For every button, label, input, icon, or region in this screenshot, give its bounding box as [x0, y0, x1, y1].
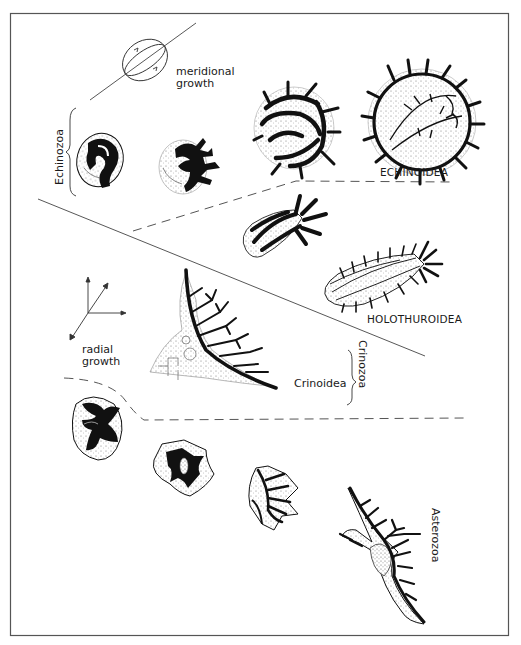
echinoidea-class-label: ECHINOIDEA — [380, 166, 448, 178]
holothuroidea-class-label: HOLOTHUROIDEA — [367, 313, 462, 325]
echinozoa-specimen-1 — [71, 128, 129, 192]
crinozoa-bracket — [347, 350, 356, 405]
echinozoa-group-label: Echinozoa — [54, 129, 66, 185]
asterozoa-specimen-4 — [340, 488, 424, 624]
crinoidea-class-label: Crinoidea — [294, 378, 347, 390]
radial-growth-label: radial growth — [82, 344, 120, 368]
three-axis-arrows-icon — [70, 277, 126, 340]
crinozoa-group-label: Crinozoa — [356, 340, 368, 388]
radial-label-line2: growth — [82, 356, 120, 368]
meridional-growth-label: meridional growth — [176, 66, 235, 90]
meridional-label-line2: growth — [176, 78, 235, 90]
asterozoa-specimen-3 — [249, 466, 298, 530]
asterozoa-specimen-2 — [153, 440, 214, 496]
asterozoa-group-label: Asterozoa — [429, 508, 441, 563]
asterozoa-specimen-1 — [72, 397, 122, 460]
holothurian-specimen-1 — [243, 196, 326, 257]
holothurian-specimen-2 — [325, 242, 442, 312]
echinozoa-bracket — [66, 108, 76, 196]
echinozoa-specimen-2 — [159, 138, 220, 194]
echinoid-specimen-3 — [254, 82, 340, 178]
